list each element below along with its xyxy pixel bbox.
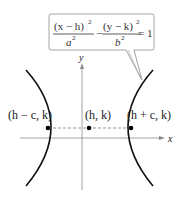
right-focus-point	[129, 126, 134, 131]
eq-operator: −	[96, 27, 102, 39]
eq-left-den-exp: 2	[72, 34, 76, 42]
eq-right-numerator: (y − k)	[103, 20, 133, 33]
y-axis-label: y	[78, 52, 84, 63]
right-focus-label: (h + c, k)	[127, 108, 171, 122]
center-label: (h, k)	[85, 108, 111, 122]
x-axis-arrow-icon	[159, 136, 165, 140]
eq-right-exp: 2	[136, 18, 140, 26]
center-point	[87, 126, 92, 131]
y-axis-arrow-icon	[80, 63, 84, 69]
left-focus-point	[46, 126, 51, 131]
x-axis-label: x	[167, 133, 173, 144]
eq-left-numerator: (x − h)	[54, 20, 84, 33]
left-focus-label: (h − c, k)	[8, 108, 52, 122]
hyperbola-diagram: (x − h) 2 a 2 − (y − k) 2 b 2 = 1 y x (h…	[0, 0, 180, 197]
eq-right-den-exp: 2	[121, 34, 125, 42]
eq-left-exp: 2	[88, 18, 92, 26]
equation-callout: (x − h) 2 a 2 − (y − k) 2 b 2 = 1	[49, 14, 154, 80]
eq-rhs: = 1	[138, 27, 152, 39]
